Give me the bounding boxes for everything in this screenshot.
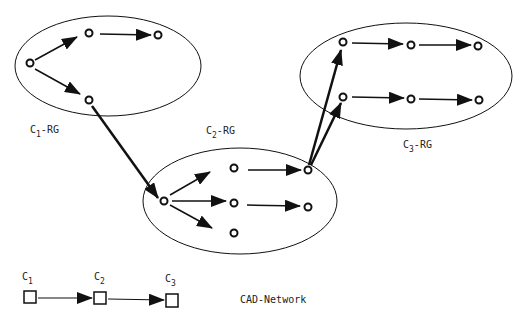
edge: [100, 34, 151, 35]
node: [476, 97, 483, 104]
node: [408, 96, 415, 103]
cross-edge: [92, 106, 158, 198]
cross-edge: [311, 103, 341, 165]
node: [475, 43, 482, 50]
cross-edge: [309, 50, 341, 165]
network-node-label: C2: [94, 271, 105, 286]
edge: [35, 37, 77, 60]
node: [231, 230, 238, 237]
network-node-label: C3: [165, 273, 176, 288]
network-title: CAD-Network: [240, 294, 306, 305]
node: [27, 60, 34, 67]
diagram-canvas: C1-RG C2-RG C3-RG C1 C2 C3 CAD-Network: [0, 0, 526, 335]
node: [231, 200, 238, 207]
c3-rg-ellipse: [300, 23, 512, 129]
edge: [352, 43, 403, 44]
c1-rg-ellipse: [15, 16, 201, 116]
c3-rg-label: C3-RG: [403, 139, 432, 154]
network-node-label: C1: [22, 271, 33, 286]
edge: [419, 99, 472, 100]
edge: [170, 172, 210, 195]
node: [340, 39, 347, 46]
node: [86, 30, 93, 37]
node: [305, 204, 312, 211]
edge: [170, 205, 212, 228]
node: [408, 42, 415, 49]
node: [340, 94, 347, 101]
network-edge: [108, 299, 164, 300]
node: [305, 167, 312, 174]
network-node-box: [94, 292, 106, 304]
network-node-box: [24, 291, 36, 303]
node: [161, 198, 168, 205]
node: [86, 97, 93, 104]
edge: [247, 205, 300, 206]
node: [231, 165, 238, 172]
network-node-box: [166, 294, 178, 307]
node: [155, 32, 162, 39]
edge: [352, 97, 404, 98]
c1-rg-label: C1-RG: [30, 124, 59, 139]
c2-rg-label: C2-RG: [206, 125, 235, 140]
edge: [35, 69, 80, 94]
